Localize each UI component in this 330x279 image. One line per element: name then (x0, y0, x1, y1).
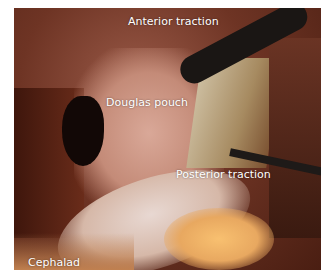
dark-cavity (62, 96, 104, 166)
bowel-yellow (164, 208, 274, 270)
surgical-image: Anterior traction Douglas pouch Posterio… (14, 8, 321, 270)
label-douglas-pouch: Douglas pouch (106, 96, 188, 109)
label-cephalad: Cephalad (28, 256, 80, 269)
right-dark-tissue (269, 38, 321, 238)
label-posterior-traction: Posterior traction (176, 168, 271, 181)
label-anterior-traction: Anterior traction (128, 15, 219, 28)
